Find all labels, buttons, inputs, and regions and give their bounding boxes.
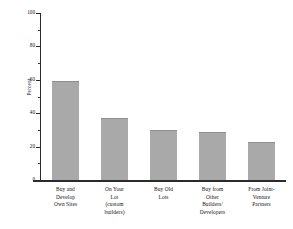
x-axis-category-label-line: (custom: [87, 201, 142, 209]
y-axis-tick: [36, 113, 40, 114]
x-axis-category-label-line: Lots: [136, 194, 191, 202]
x-axis-category-label-line: Buy from: [185, 186, 240, 194]
bar: [150, 130, 177, 180]
x-axis-category-label-line: Partners: [234, 201, 289, 209]
x-axis-line: [33, 180, 286, 182]
bar: [52, 81, 79, 180]
y-axis-label: Percent: [26, 64, 32, 110]
x-axis-category-label: Buy fromOtherBuilders/Developers: [185, 186, 240, 216]
bar: [199, 132, 226, 180]
plot-area: [41, 13, 286, 180]
y-axis-tick-label: 0: [13, 177, 35, 182]
y-axis-minor-tick: [38, 130, 41, 131]
x-axis-category-label: Buy OldLots: [136, 186, 191, 201]
y-axis-minor-tick: [38, 163, 41, 164]
y-axis-tick: [36, 46, 40, 47]
x-axis-category-label: From Joint-VenturePartners: [234, 186, 289, 209]
x-axis-category-label-line: Lot: [87, 194, 142, 202]
bar: [248, 142, 275, 180]
x-axis-category-label-line: Own Sites: [38, 201, 93, 209]
y-axis-tick: [36, 80, 40, 81]
y-axis-tick-label: 60: [13, 77, 35, 82]
y-axis-minor-tick: [38, 63, 41, 64]
y-axis-tick-label: 80: [13, 43, 35, 48]
y-axis-tick: [36, 147, 40, 148]
x-axis-category-labels: Buy andDevelopOwn SitesOn YourLot(custom…: [41, 186, 286, 228]
x-axis-category-label-line: From Joint-: [234, 186, 289, 194]
y-axis-minor-tick: [38, 97, 41, 98]
x-axis-category-label-line: Builders/: [185, 201, 240, 209]
x-axis-category-label-line: Other: [185, 194, 240, 202]
x-axis-category-label-line: On Your: [87, 186, 142, 194]
x-axis-category-label-line: Develop: [38, 194, 93, 202]
x-axis-category-label-line: Buy and: [38, 186, 93, 194]
bar-chart: Percent 020406080100 Buy andDevelopOwn S…: [0, 0, 293, 229]
y-axis-tick-label: 40: [13, 110, 35, 115]
x-axis-category-label: Buy andDevelopOwn Sites: [38, 186, 93, 209]
y-axis-tick-label: 20: [13, 144, 35, 149]
x-axis-category-label-line: builders): [87, 209, 142, 217]
bar: [101, 118, 128, 180]
x-axis-category-label: On YourLot(custombuilders): [87, 186, 142, 216]
x-axis-category-label-line: Venture: [234, 194, 289, 202]
y-axis-tick: [36, 13, 40, 14]
y-axis-minor-tick: [38, 30, 41, 31]
x-axis-category-label-line: Developers: [185, 209, 240, 217]
y-axis-tick-label: 100: [13, 10, 35, 15]
x-axis-category-label-line: Buy Old: [136, 186, 191, 194]
